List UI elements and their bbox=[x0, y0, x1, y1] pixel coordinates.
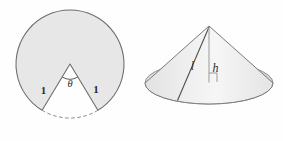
dashed-arc bbox=[42, 110, 98, 118]
left-figure-group: 1 1 θ bbox=[16, 10, 124, 118]
figure-canvas: 1 1 θ l h bbox=[0, 0, 283, 141]
figure-root: 1 1 θ l h bbox=[0, 0, 283, 141]
label-height: h bbox=[213, 61, 219, 75]
circle-minus-sector-shape bbox=[16, 10, 124, 110]
right-figure-group: l h bbox=[145, 26, 273, 104]
label-angle-theta: θ bbox=[67, 78, 72, 89]
label-radius-right: 1 bbox=[93, 83, 99, 95]
label-radius-left: 1 bbox=[41, 84, 47, 96]
